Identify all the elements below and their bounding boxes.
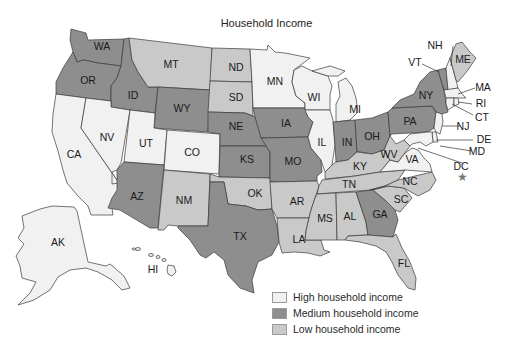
legend-swatch-low	[272, 324, 287, 335]
label-md: MD	[469, 145, 486, 157]
label-nm: NM	[176, 194, 192, 206]
label-nv: NV	[100, 131, 115, 143]
label-ne: NE	[229, 120, 244, 132]
label-ca: CA	[67, 148, 82, 160]
label-va: VA	[405, 153, 418, 165]
label-ia: IA	[281, 117, 291, 129]
label-ak: AK	[51, 236, 65, 248]
label-il: IL	[318, 136, 327, 148]
label-ky: KY	[353, 160, 367, 172]
label-ny: NY	[419, 89, 434, 101]
label-oh: OH	[364, 130, 380, 142]
label-ks: KS	[240, 153, 254, 165]
label-ma: MA	[475, 81, 491, 93]
label-tx: TX	[233, 230, 246, 242]
label-mi: MI	[349, 103, 361, 115]
state-ma[interactable]	[444, 88, 466, 98]
label-dc: DC	[453, 160, 469, 172]
state-nj[interactable]	[434, 112, 443, 134]
state-ct[interactable]	[446, 98, 454, 110]
label-ar: AR	[290, 195, 305, 207]
label-me: ME	[455, 53, 471, 65]
label-az: AZ	[130, 190, 144, 202]
label-fl: FL	[398, 257, 410, 269]
legend-label-low: Low household income	[293, 323, 400, 335]
label-la: LA	[293, 233, 306, 245]
legend-swatch-high	[272, 292, 287, 303]
label-id: ID	[128, 89, 139, 101]
label-al: AL	[344, 210, 357, 222]
label-nc: NC	[402, 175, 418, 187]
label-nh: NH	[427, 39, 442, 51]
label-sd: SD	[229, 91, 244, 103]
label-tn: TN	[342, 178, 356, 190]
label-ri: RI	[476, 97, 487, 109]
legend-label-high: High household income	[293, 291, 403, 303]
label-wv: WV	[381, 148, 398, 160]
legend-swatch-medium	[272, 308, 287, 319]
label-sc: SC	[394, 193, 409, 205]
label-nd: ND	[228, 61, 244, 73]
label-ga: GA	[372, 208, 387, 220]
label-wi: WI	[308, 91, 321, 103]
label-ut: UT	[139, 137, 154, 149]
label-wa: WA	[94, 40, 111, 52]
legend-item-high: High household income	[272, 289, 419, 305]
label-mo: MO	[285, 155, 302, 167]
label-in: IN	[342, 136, 353, 148]
state-ak[interactable]	[16, 206, 130, 305]
legend: High household income Medium household i…	[272, 289, 419, 337]
label-co: CO	[184, 146, 200, 158]
label-wy: WY	[174, 102, 191, 114]
legend-label-medium: Medium household income	[293, 307, 419, 319]
state-md[interactable]	[404, 132, 433, 146]
label-ok: OK	[247, 187, 262, 199]
dc-star-icon: ★	[457, 170, 468, 184]
legend-item-medium: Medium household income	[272, 305, 419, 321]
legend-item-low: Low household income	[272, 321, 419, 337]
label-or: OR	[80, 74, 96, 86]
label-de: DE	[477, 133, 492, 145]
label-pa: PA	[403, 115, 416, 127]
label-nj: NJ	[457, 120, 470, 132]
label-vt: VT	[408, 56, 422, 68]
label-mt: MT	[163, 58, 179, 70]
us-choropleth-map: ★ WA OR CA ID NV MT WY UT CO AZ NM ND SD…	[0, 0, 505, 346]
label-ms: MS	[317, 212, 333, 224]
label-ct: CT	[475, 111, 490, 123]
label-mn: MN	[267, 75, 283, 87]
label-hi: HI	[148, 263, 159, 275]
